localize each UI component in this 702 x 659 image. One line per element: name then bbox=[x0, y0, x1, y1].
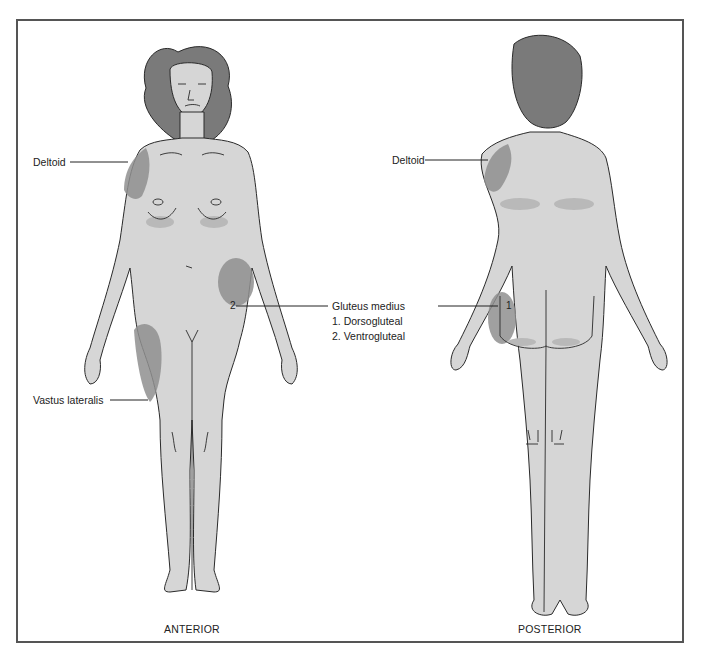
caption-posterior: POSTERIOR bbox=[518, 623, 582, 635]
marker-ventrogluteal: 2 bbox=[230, 300, 236, 312]
caption-anterior: ANTERIOR bbox=[164, 623, 220, 635]
anterior-torso bbox=[85, 138, 298, 592]
label-anterior-deltoid: Deltoid bbox=[33, 156, 66, 168]
label-vastus-lateralis: Vastus lateralis bbox=[33, 394, 103, 406]
label-ventrogluteal: 2. Ventrogluteal bbox=[332, 330, 405, 342]
label-posterior-deltoid: Deltoid bbox=[392, 154, 425, 166]
label-gluteus-medius: Gluteus medius bbox=[332, 300, 405, 312]
label-dorsogluteal: 1. Dorsogluteal bbox=[332, 315, 403, 327]
posterior-hair bbox=[512, 35, 582, 128]
anterior-figure bbox=[85, 47, 298, 592]
marker-dorsogluteal: 1 bbox=[506, 300, 512, 312]
ventrogluteal-site bbox=[218, 258, 254, 306]
posterior-figure bbox=[451, 35, 667, 615]
